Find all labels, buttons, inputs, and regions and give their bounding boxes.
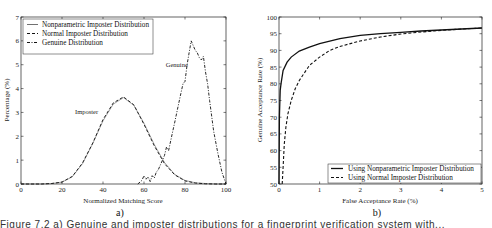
y-tick-label: 90 bbox=[270, 47, 278, 55]
annotations-a: ImposterGenuine bbox=[75, 61, 188, 115]
annotation-label: Imposter bbox=[75, 108, 99, 115]
y-tick-label: 70 bbox=[270, 114, 278, 122]
chart-a: 02040608010001234567 ImposterGenuine Nor… bbox=[3, 14, 232, 220]
x-tick-label: 5 bbox=[480, 186, 484, 194]
x-tick-label: 4 bbox=[440, 186, 444, 194]
x-tick-label: 40 bbox=[100, 186, 108, 194]
chart-b: 01234550556065707580859095100 False Acce… bbox=[256, 14, 484, 220]
plot-area-b bbox=[279, 17, 482, 184]
y-tick-label: 75 bbox=[270, 97, 278, 105]
y-tick-label: 0 bbox=[16, 181, 20, 189]
legend-item-normal: Normal Imposter Distribution bbox=[42, 30, 128, 38]
x-tick-label: 80 bbox=[182, 186, 190, 194]
annotation-label: Genuine bbox=[166, 61, 188, 68]
y-tick-label: 100 bbox=[267, 14, 278, 22]
x-tick-label: 3 bbox=[399, 186, 403, 194]
legend-item-nonparametric: Nonparametric Imposter Distribution bbox=[42, 21, 149, 29]
legend-a: Nonparametric Imposter Distribution Norm… bbox=[23, 19, 153, 54]
y-tick-label: 80 bbox=[270, 80, 278, 88]
x-tick-label: 20 bbox=[59, 186, 67, 194]
y-tick-label: 1 bbox=[16, 157, 20, 165]
figure: 02040608010001234567 ImposterGenuine Nor… bbox=[0, 0, 492, 228]
legend-b: Using Nonparametric Imposter Distributio… bbox=[328, 164, 481, 183]
series-line bbox=[279, 28, 482, 184]
x-axis-label-a: Normalized Matching Score bbox=[83, 197, 162, 205]
y-axis-label-a: Percentage (%) bbox=[3, 78, 11, 122]
panel-label-a: a) bbox=[116, 207, 124, 219]
y-tick-label: 2 bbox=[16, 133, 20, 141]
y-tick-label: 95 bbox=[270, 30, 278, 38]
x-tick-label: 1 bbox=[318, 186, 322, 194]
panel-label-b: b) bbox=[373, 207, 381, 219]
y-tick-label: 65 bbox=[270, 130, 278, 138]
series-lines-b bbox=[279, 28, 482, 184]
y-tick-label: 60 bbox=[270, 147, 278, 155]
y-axis-label-b: Genuine Acceptance Rate (%) bbox=[256, 57, 264, 142]
x-tick-label: 60 bbox=[141, 186, 149, 194]
legend-item-genuine: Genuine Distribution bbox=[42, 39, 103, 47]
series-line bbox=[21, 98, 226, 184]
y-tick-label: 50 bbox=[270, 181, 278, 189]
y-tick-label: 3 bbox=[16, 109, 20, 117]
x-tick-label: 2 bbox=[358, 186, 362, 194]
y-tick-label: 55 bbox=[270, 164, 278, 172]
legend-item-normal-b: Using Normal Imposter Distribution bbox=[348, 174, 453, 182]
y-tick-label: 5 bbox=[16, 61, 20, 69]
y-tick-label: 85 bbox=[270, 64, 278, 72]
y-tick-label: 6 bbox=[16, 37, 20, 45]
figure-caption: Figure 7.2 a) Genuine and imposter distr… bbox=[0, 219, 492, 228]
x-tick-label: 0 bbox=[277, 186, 281, 194]
legend-item-nonparametric-b: Using Nonparametric Imposter Distributio… bbox=[348, 165, 474, 173]
series-line bbox=[282, 28, 482, 184]
x-tick-label: 100 bbox=[221, 186, 232, 194]
series-line bbox=[21, 97, 226, 184]
series-lines-a bbox=[21, 41, 226, 184]
x-tick-label: 0 bbox=[19, 186, 23, 194]
y-tick-label: 4 bbox=[16, 85, 20, 93]
y-tick-label: 7 bbox=[16, 14, 20, 22]
x-axis-label-b: False Acceptance Rate (%) bbox=[342, 197, 418, 205]
